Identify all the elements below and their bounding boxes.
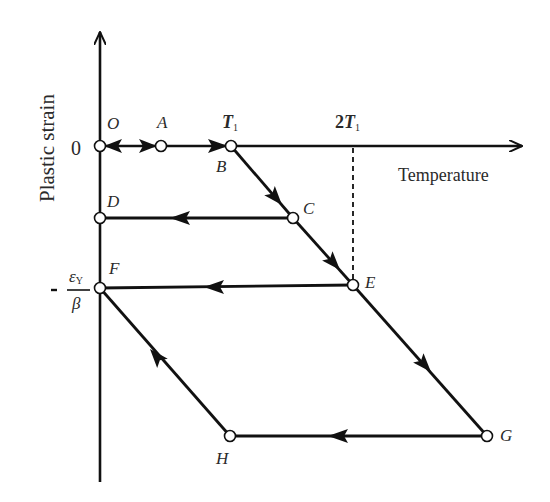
label-o: O xyxy=(107,114,119,133)
x-axis-label: Temperature xyxy=(398,165,489,185)
plastic-strain-temperature-diagram: O A B C D E F G H Plastic strain Tempera… xyxy=(0,0,550,502)
point-h xyxy=(225,431,236,442)
y-axis-label: Plastic strain xyxy=(35,94,59,202)
point-e xyxy=(348,280,359,291)
path-h-f xyxy=(100,288,230,436)
point-g xyxy=(482,431,493,442)
label-d: D xyxy=(106,192,120,211)
label-b: B xyxy=(216,157,227,176)
label-a: A xyxy=(156,113,168,132)
x-tick-t1: T1 xyxy=(222,112,238,133)
path-e-g xyxy=(353,285,487,436)
label-h: H xyxy=(215,449,230,468)
label-e: E xyxy=(364,273,376,292)
path-b-c xyxy=(231,146,293,218)
y-tick-fraction: εY β xyxy=(67,267,90,313)
direction-arrows xyxy=(104,139,436,443)
point-o xyxy=(95,141,106,152)
point-d xyxy=(95,213,106,224)
point-a xyxy=(156,141,167,152)
svg-text:εY: εY xyxy=(69,267,83,286)
point-b xyxy=(226,141,237,152)
point-c xyxy=(288,213,299,224)
state-points xyxy=(95,141,493,442)
path-e-f xyxy=(100,285,353,288)
x-tick-2t1: 2T1 xyxy=(335,112,360,133)
y-zero-label: 0 xyxy=(71,137,81,159)
arrow-up-left-icon xyxy=(145,344,168,368)
label-g: G xyxy=(500,426,512,445)
point-f xyxy=(95,283,106,294)
path-c-e xyxy=(293,218,353,285)
loading-paths xyxy=(100,146,487,436)
svg-text:β: β xyxy=(71,294,81,313)
label-f: F xyxy=(108,259,120,278)
label-c: C xyxy=(303,199,315,218)
